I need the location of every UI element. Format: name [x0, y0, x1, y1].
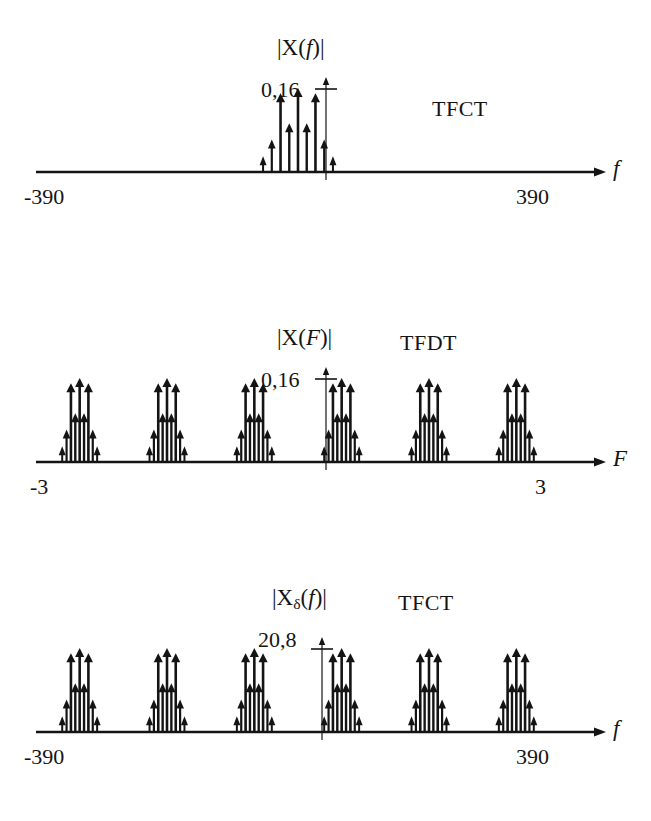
- spectral-line-arrowhead: [246, 413, 254, 422]
- plot-panel-tfdt: |X(F)| 0,16 TFDT -3 3 F: [0, 290, 651, 520]
- spectral-line-arrowhead: [259, 653, 268, 662]
- spectral-line-arrowhead: [346, 383, 355, 392]
- spectral-line-arrowhead: [408, 446, 415, 455]
- spectral-line-arrowhead: [154, 653, 163, 662]
- x-right-label-1: 3: [535, 476, 546, 498]
- spectral-line-arrowhead: [337, 378, 346, 387]
- spectral-line-arrowhead: [508, 413, 516, 422]
- spectral-line-arrowhead: [433, 383, 442, 392]
- spectral-line-arrowhead: [342, 413, 350, 422]
- spectral-line-arrowhead: [71, 683, 79, 692]
- spectral-line-arrowhead: [66, 653, 75, 662]
- figure-root: |X(f)| 0,16 TFCT -390 390 f |X(F)| 0,16 …: [0, 0, 651, 821]
- x-axis-arrowhead: [594, 458, 606, 467]
- spectral-line-arrowhead: [171, 653, 180, 662]
- spectral-line-arrowhead: [233, 716, 240, 725]
- spectral-line-arrowhead: [420, 683, 428, 692]
- spectral-line-arrowhead: [328, 383, 337, 392]
- spectral-line-arrowhead: [237, 429, 245, 438]
- spectral-line-arrowhead: [268, 446, 275, 455]
- spectral-line-arrowhead: [63, 699, 71, 708]
- x-left-label-1: -3: [30, 476, 48, 498]
- spectral-line-arrowhead: [255, 413, 263, 422]
- spectral-line-arrowhead: [503, 383, 512, 392]
- spectral-line-arrowhead: [80, 683, 88, 692]
- spectral-line-arrowhead: [176, 699, 184, 708]
- spectral-line-arrowhead: [325, 699, 333, 708]
- spectral-line-arrowhead: [255, 683, 263, 692]
- method-label-1: TFDT: [400, 332, 457, 354]
- spectral-line-arrowhead: [517, 413, 525, 422]
- spectral-line-arrowhead: [84, 653, 93, 662]
- spectral-line-arrowhead: [241, 653, 250, 662]
- y-axis-arrowhead: [323, 77, 329, 85]
- spectral-line-arrowhead: [162, 378, 171, 387]
- spectral-line-arrowhead: [495, 716, 502, 725]
- spectral-line-arrowhead: [158, 413, 166, 422]
- plot-panel-tfct-sampled: |Xδ(f)| 20,8 TFCT -390 390 f: [0, 550, 651, 790]
- spectral-line-arrowhead: [356, 716, 363, 725]
- spectral-line-arrowhead: [517, 683, 525, 692]
- spectral-line-arrowhead: [268, 139, 276, 148]
- spectral-line-arrowhead: [429, 413, 437, 422]
- spectral-line-arrowhead: [285, 123, 293, 132]
- x-right-label-0: 390: [516, 186, 549, 208]
- spectral-line-arrowhead: [416, 653, 425, 662]
- spectral-line-arrowhead: [260, 156, 267, 165]
- x-axis-variable-0: f: [613, 157, 619, 180]
- spectral-line-arrowhead: [150, 429, 158, 438]
- spectral-line-arrowhead: [333, 413, 341, 422]
- spectral-line-arrowhead: [94, 716, 101, 725]
- spectral-line-arrowhead: [416, 383, 425, 392]
- spectral-line-arrowhead: [333, 683, 341, 692]
- spectral-line-arrowhead: [246, 683, 254, 692]
- spectral-line-arrowhead: [75, 378, 84, 387]
- spectral-line-arrowhead: [521, 383, 530, 392]
- plot-canvas-0: [0, 0, 651, 230]
- spectral-line-arrowhead: [443, 446, 450, 455]
- x-axis-variable-1: F: [613, 447, 627, 470]
- spectral-line-arrowhead: [66, 383, 75, 392]
- spectral-line-arrowhead: [351, 699, 359, 708]
- spectral-line-arrowhead: [503, 653, 512, 662]
- spectral-line-arrowhead: [59, 446, 66, 455]
- spectral-line-arrowhead: [59, 716, 66, 725]
- spectral-line-arrowhead: [181, 446, 188, 455]
- spectral-line-arrowhead: [80, 413, 88, 422]
- spectral-line-arrowhead: [342, 683, 350, 692]
- spectral-line-arrowhead: [499, 429, 507, 438]
- x-left-label-0: -390: [24, 186, 64, 208]
- spectral-line-arrowhead: [181, 716, 188, 725]
- spectral-line-arrowhead: [521, 653, 530, 662]
- spectral-line-arrowhead: [526, 429, 534, 438]
- spectral-line-arrowhead: [303, 123, 311, 132]
- spectral-line-arrowhead: [526, 699, 534, 708]
- spectral-line-arrowhead: [433, 653, 442, 662]
- spectral-line-arrowhead: [75, 648, 84, 657]
- spectral-line-arrowhead: [71, 413, 79, 422]
- spectral-line-arrowhead: [508, 683, 516, 692]
- spectrum-lines-2: [59, 648, 538, 732]
- x-left-label-2: -390: [24, 746, 64, 768]
- spectral-line-arrowhead: [264, 429, 272, 438]
- spectral-line-arrowhead: [438, 699, 446, 708]
- spectral-line-arrowhead: [146, 446, 153, 455]
- y-axis-title-0: |X(f)|: [277, 36, 325, 59]
- spectral-line-arrowhead: [154, 383, 163, 392]
- spectral-line-arrowhead: [412, 429, 420, 438]
- spectral-line-arrowhead: [346, 653, 355, 662]
- spectral-line-arrowhead: [424, 648, 433, 657]
- spectral-line-arrowhead: [311, 93, 320, 102]
- y-tick-label-0: 0,16: [261, 79, 300, 101]
- spectral-line-arrowhead: [162, 648, 171, 657]
- spectral-line-arrowhead: [321, 446, 328, 455]
- spectral-line-arrowhead: [89, 429, 97, 438]
- spectral-line-arrowhead: [429, 683, 437, 692]
- y-axis-title-1: |X(F)|: [277, 326, 332, 349]
- spectral-line-arrowhead: [412, 699, 420, 708]
- y-axis-arrowhead: [323, 367, 329, 375]
- spectral-line-arrowhead: [328, 653, 337, 662]
- spectral-line-arrowhead: [530, 446, 537, 455]
- spectral-line-arrowhead: [89, 699, 97, 708]
- spectral-line-arrowhead: [167, 683, 175, 692]
